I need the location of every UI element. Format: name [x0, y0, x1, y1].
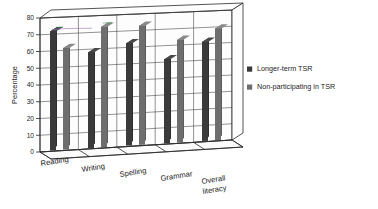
legend-swatch-icon-non-participating: [247, 85, 252, 90]
bar-grammar-longer-term: [164, 60, 170, 144]
y-tick-label-60: 60: [27, 48, 35, 55]
bar-spelling-non-participating: [139, 26, 145, 145]
bar-grammar-non-participating: [177, 40, 183, 142]
y-tick-label-0: 0: [30, 148, 34, 155]
x-axis-labels: Reading Writing Spelling Grammar Overall…: [40, 155, 227, 196]
bar-writing-longer-term: [88, 53, 94, 149]
bar-spelling-longer-term: [126, 43, 132, 145]
y-tick-label-40: 40: [27, 81, 35, 88]
bar-chart-3d: 80 70 60 50 40 30 20 10 0 Percentage: [0, 0, 378, 209]
bar-reading-longer-term: [50, 32, 56, 151]
y-tick-label-10: 10: [27, 132, 35, 139]
y-tick-label-80: 80: [27, 14, 35, 21]
legend-item-non-participating-tsr[interactable]: Non-participating in TSR: [247, 82, 335, 91]
y-tick-label-70: 70: [27, 31, 35, 38]
y-tick-label-50: 50: [27, 65, 35, 72]
bar-overall-literacy-longer-term: [202, 42, 208, 141]
x-label-spelling: Spelling: [119, 166, 147, 179]
y-tick-label-30: 30: [27, 98, 35, 105]
y-axis-title: Percentage: [10, 66, 19, 104]
right-wall: [232, 3, 243, 140]
legend-swatch-icon-longer-term: [247, 67, 252, 72]
legend-label-longer-term: Longer-term TSR: [257, 64, 312, 73]
x-label-grammar: Grammar: [160, 169, 194, 183]
bar-overall-literacy-non-participating: [215, 29, 221, 140]
bar-reading-non-participating: [63, 48, 69, 149]
chart-container: 80 70 60 50 40 30 20 10 0 Percentage: [0, 0, 378, 209]
x-label-writing: Writing: [81, 161, 106, 174]
chart-legend: Longer-term TSR Non-participating in TSR: [247, 64, 335, 91]
y-axis: 80 70 60 50 40 30 20 10 0: [27, 14, 40, 155]
legend-item-longer-term-tsr[interactable]: Longer-term TSR: [247, 64, 312, 73]
x-label-reading: Reading: [40, 155, 69, 168]
y-tick-label-20: 20: [27, 115, 35, 122]
legend-label-non-participating: Non-participating in TSR: [257, 82, 335, 91]
bar-writing-non-participating: [101, 27, 107, 147]
